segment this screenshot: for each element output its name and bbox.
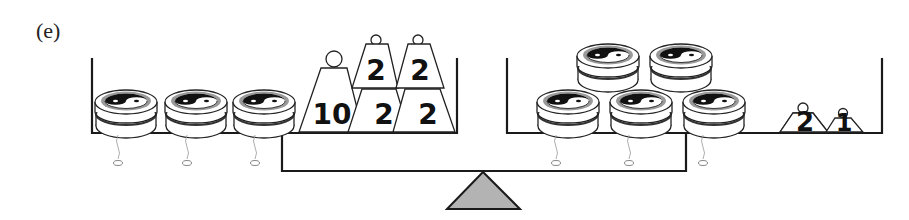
- right-disc-tag-3: [699, 135, 708, 166]
- weight-label: 2: [796, 107, 814, 137]
- right-disc-bottom-1: [537, 90, 599, 138]
- balance-beam: [282, 134, 686, 171]
- right-disc-tag-1: [552, 135, 561, 166]
- left-disc-tag-2: [183, 135, 192, 166]
- weight-label: 2: [418, 98, 437, 131]
- left-disc-tag-3: [251, 135, 260, 166]
- right-disc-bottom-3: [683, 90, 745, 138]
- fulcrum: [447, 172, 520, 209]
- weight-label: 2: [374, 98, 393, 131]
- right-disc-bottom-2: [610, 90, 672, 138]
- balance-scale-diagram: 10 2 2 2 2 2 1: [0, 0, 909, 220]
- left-disc-2: [165, 90, 227, 138]
- weight-label: 10: [313, 98, 352, 131]
- weight-label: 1: [836, 109, 853, 137]
- weight-label: 2: [366, 54, 385, 87]
- right-disc-tag-2: [625, 135, 634, 166]
- left-disc-3: [233, 90, 295, 138]
- left-disc-1: [95, 90, 157, 138]
- weight-2-bottom-right: 2: [393, 89, 455, 132]
- weight-2-top-right: 2: [396, 35, 444, 88]
- right-disc-top-2: [650, 44, 712, 92]
- left-disc-tag-1: [114, 135, 123, 166]
- weight-label: 2: [410, 54, 429, 87]
- right-disc-top-1: [577, 44, 639, 92]
- weight-2-right: 2: [780, 103, 828, 137]
- weight-2-top-left: 2: [352, 35, 398, 88]
